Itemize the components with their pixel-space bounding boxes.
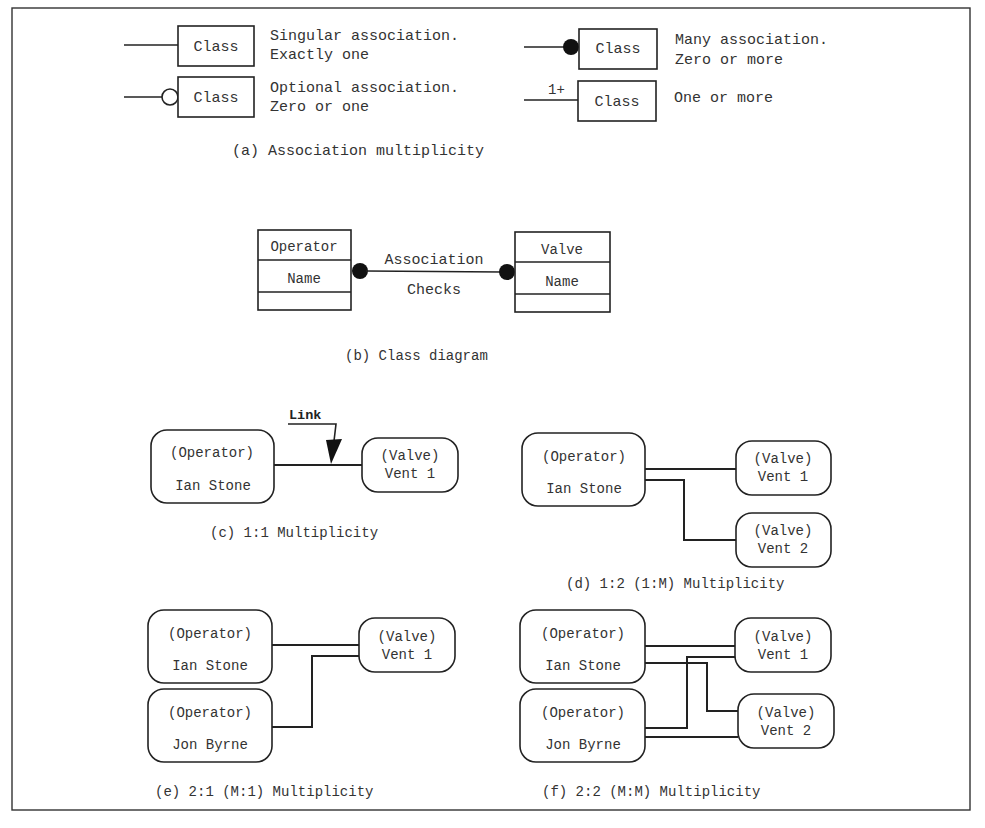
- class-attribute: Name: [287, 271, 321, 287]
- legend-desc-line2: Exactly one: [270, 47, 369, 64]
- legend-desc-line1: Singular association.: [270, 28, 459, 45]
- class-label: Class: [193, 39, 238, 56]
- panel-f-caption: (f) 2:2 (M:M) Multiplicity: [542, 784, 760, 800]
- object-type: (Valve): [754, 629, 813, 645]
- class-name: Valve: [541, 242, 583, 258]
- class-valve: Valve Name: [515, 232, 610, 312]
- object-name: Vent 2: [758, 541, 808, 557]
- object-type: (Operator): [170, 445, 254, 461]
- class-name: Operator: [270, 239, 337, 255]
- class-label: Class: [193, 90, 238, 107]
- legend-desc-line1: Many association.: [675, 32, 828, 49]
- legend-desc-line2: Zero or more: [675, 52, 783, 69]
- object-type: (Operator): [541, 626, 625, 642]
- filled-circle-icon: [499, 264, 515, 280]
- association-line: [366, 271, 502, 272]
- class-label: Class: [595, 41, 640, 58]
- object-type: (Valve): [757, 705, 816, 721]
- panel-d-caption: (d) 1:2 (1:M) Multiplicity: [566, 576, 784, 592]
- panel-a-caption: (a) Association multiplicity: [232, 143, 484, 160]
- object-name: Ian Stone: [175, 478, 251, 494]
- panel-b-caption: (b) Class diagram: [345, 348, 488, 364]
- object-type: (Operator): [168, 626, 252, 642]
- legend-desc-line1: One or more: [674, 90, 773, 107]
- panel-c-caption: (c) 1:1 Multiplicity: [210, 525, 378, 541]
- object-type: (Valve): [754, 523, 813, 539]
- object-valve: [736, 513, 831, 567]
- legend-desc-line2: Zero or one: [270, 99, 369, 116]
- hollow-circle-icon: [162, 89, 178, 105]
- object-valve: [735, 618, 831, 672]
- object-name: Vent 1: [758, 647, 808, 663]
- association-label: Association: [384, 252, 483, 269]
- object-type: (Valve): [381, 448, 440, 464]
- link-label: Link: [289, 408, 321, 423]
- object-valve: [736, 441, 831, 495]
- class-attribute: Name: [545, 274, 579, 290]
- object-valve: [362, 438, 458, 492]
- object-name: Ian Stone: [172, 658, 248, 674]
- uml-multiplicity-figure: Class Singular association. Exactly one …: [0, 0, 985, 828]
- object-type: (Operator): [542, 449, 626, 465]
- object-name: Vent 1: [385, 466, 435, 482]
- object-name: Vent 2: [761, 723, 811, 739]
- object-name: Jon Byrne: [172, 737, 248, 753]
- object-type: (Operator): [168, 705, 252, 721]
- object-valve: [738, 694, 834, 748]
- object-name: Jon Byrne: [545, 737, 621, 753]
- object-name: Ian Stone: [545, 658, 621, 674]
- object-name: Vent 1: [758, 469, 808, 485]
- panel-e-caption: (e) 2:1 (M:1) Multiplicity: [155, 784, 373, 800]
- class-label: Class: [594, 94, 639, 111]
- legend-desc-line1: Optional association.: [270, 80, 459, 97]
- object-type: (Operator): [541, 705, 625, 721]
- filled-circle-icon: [563, 39, 579, 55]
- one-plus-marker: 1+: [548, 82, 565, 98]
- object-valve: [359, 618, 455, 672]
- object-name: Ian Stone: [546, 481, 622, 497]
- association-name: Checks: [407, 282, 461, 299]
- filled-circle-icon: [352, 263, 368, 279]
- object-type: (Valve): [754, 451, 813, 467]
- figure-frame: [12, 8, 970, 810]
- object-name: Vent 1: [382, 647, 432, 663]
- class-operator: Operator Name: [258, 230, 351, 310]
- object-type: (Valve): [378, 629, 437, 645]
